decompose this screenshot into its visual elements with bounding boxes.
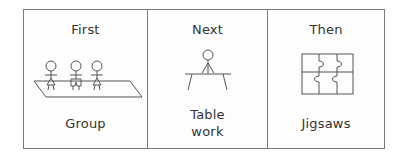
step-heading: First: [24, 22, 147, 37]
step-then: Then Jigsaws: [267, 10, 384, 148]
step-label: Group: [24, 115, 147, 132]
step-label: Table work: [148, 106, 267, 140]
step-label-line-1: Table: [148, 106, 267, 123]
jigsaw-puzzle-icon: [299, 52, 355, 96]
first-next-then-board: First Group Next: [23, 9, 385, 149]
group-of-people-icon: [32, 59, 144, 104]
step-first: First Group: [24, 10, 147, 148]
step-heading: Next: [148, 22, 267, 37]
step-heading: Then: [268, 22, 384, 37]
person-at-table-icon: [183, 49, 233, 94]
step-label: Jigsaws: [268, 115, 384, 132]
step-next: Next Table work: [147, 10, 267, 148]
step-label-line-2: work: [148, 123, 267, 140]
